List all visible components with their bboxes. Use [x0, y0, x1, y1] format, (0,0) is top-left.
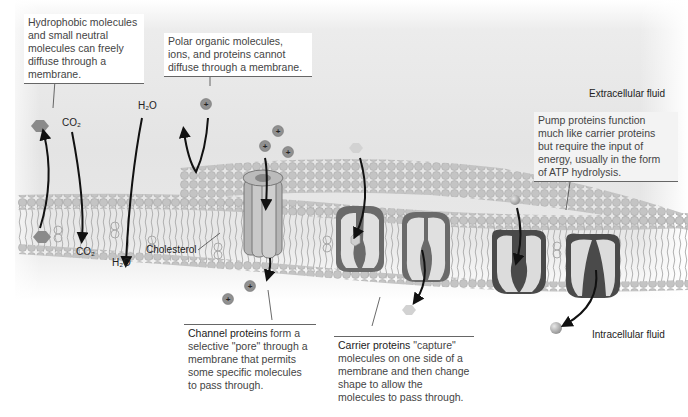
callout-line: form a	[267, 327, 300, 339]
callout-line: molecules to pass through.	[338, 391, 470, 404]
svg-text:+: +	[276, 127, 281, 136]
callout-line: energy, usually in the form	[538, 153, 674, 166]
carrier-protein-open-out	[336, 206, 384, 272]
callout-line: "capture"	[410, 339, 455, 351]
callout-hydrophobic-diffusion: Hydrophobic molecules and small neutral …	[24, 14, 144, 84]
pump-cargo-top	[510, 195, 520, 205]
channel-proteins-term: Channel proteins	[188, 327, 267, 339]
co2-label-bottom: CO₂	[76, 246, 95, 257]
callout-line: but require the input of	[538, 140, 674, 153]
h2o-label-bottom: H₂O	[112, 257, 131, 268]
carrier-cargo-bottom	[402, 305, 416, 315]
callout-line: molecules can freely	[28, 42, 140, 55]
callout-line: to pass through.	[188, 379, 312, 392]
callout-channel-proteins: Channel proteins form a selective "pore"…	[184, 324, 316, 394]
pump-cargo-bottom	[550, 322, 562, 334]
callout-line: Pump proteins function	[538, 114, 674, 127]
callout-line: membrane.	[28, 68, 140, 81]
callout-line: membrane and then change	[338, 365, 470, 378]
svg-text:+: +	[263, 142, 268, 151]
svg-text:+: +	[226, 295, 231, 304]
callout-line: much like carrier proteins	[538, 127, 674, 140]
callout-line: Polar organic molecules,	[168, 35, 308, 48]
svg-text:+: +	[286, 148, 291, 157]
callout-pump-proteins: Pump proteins function much like carrier…	[534, 112, 678, 182]
channel-protein	[243, 170, 283, 258]
callout-line: molecules on one side of a	[338, 352, 470, 365]
callout-line: Hydrophobic molecules	[28, 16, 140, 29]
callout-line: membrane that permits	[188, 353, 312, 366]
callout-line: diffuse through a membrane.	[168, 61, 308, 74]
callout-line: and small neutral	[28, 29, 140, 42]
pump-protein-1	[492, 230, 546, 294]
callout-line: shape to allow the	[338, 378, 470, 391]
carrier-proteins-term: Carrier proteins	[338, 339, 410, 351]
pump-protein-2	[566, 234, 620, 298]
svg-text:+: +	[248, 282, 253, 291]
callout-line: of ATP hydrolysis.	[538, 166, 674, 179]
callout-line: diffuse through a	[28, 55, 140, 68]
cholesterol-label: Cholesterol	[146, 244, 197, 255]
callout-polar-molecules: Polar organic molecules, ions, and prote…	[164, 33, 312, 77]
callout-line: selective "pore" through a	[188, 340, 312, 353]
hydrophobic-molecule-top	[31, 120, 49, 132]
intracellular-fluid-label: Intracellular fluid	[592, 329, 665, 340]
carrier-protein-open-in	[402, 212, 450, 282]
svg-text:+: +	[204, 100, 209, 109]
h2o-label-top: H₂O	[138, 100, 157, 111]
carrier-cargo-top	[349, 143, 363, 153]
callout-carrier-proteins: Carrier proteins "capture" molecules on …	[334, 336, 474, 406]
callout-line: some specific molecules	[188, 366, 312, 379]
co2-label-top: CO₂	[62, 117, 81, 128]
callout-line: ions, and proteins cannot	[168, 48, 308, 61]
extracellular-fluid-label: Extracellular fluid	[589, 88, 665, 99]
